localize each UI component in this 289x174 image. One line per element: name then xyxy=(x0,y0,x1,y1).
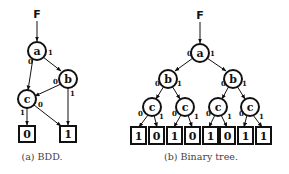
edge-label-high: 1 xyxy=(194,112,199,121)
terminal-0: 0 xyxy=(19,126,35,142)
leaf-3: 0 xyxy=(185,127,200,144)
svg-text:c: c xyxy=(215,101,222,114)
root-label: F xyxy=(33,8,41,21)
leaf-5: 0 xyxy=(220,127,235,144)
svg-text:1: 1 xyxy=(242,130,250,143)
edge-a-b xyxy=(43,57,61,71)
binary-tree-diagram: F a b b c xyxy=(131,9,271,162)
node-b-right: b xyxy=(224,70,242,88)
node-c-01: c xyxy=(176,98,194,116)
bdd-figure: F a b c 0 1 0 1 1 0 0 xyxy=(0,0,289,174)
edge-label-low: 0 xyxy=(221,79,226,88)
edge-label-high: 1 xyxy=(242,79,247,88)
svg-text:0: 0 xyxy=(153,130,161,143)
svg-text:a: a xyxy=(33,45,40,58)
edge-label-low: 0 xyxy=(155,79,160,88)
svg-text:b: b xyxy=(164,73,172,86)
edge-label-c-t1: 0 xyxy=(38,100,43,109)
edge-label-b-c: 0 xyxy=(53,77,58,86)
node-c: c xyxy=(18,90,36,108)
edge-label-high: 1 xyxy=(227,112,232,121)
edge-label-low: 0 xyxy=(172,109,177,118)
edge-label-a-b: 1 xyxy=(48,48,53,57)
svg-text:c: c xyxy=(149,101,156,114)
leaf-6: 1 xyxy=(238,127,253,144)
bdd-diagram: F a b c 0 1 0 1 1 0 0 xyxy=(18,8,77,162)
edge-label-b-t1: 1 xyxy=(70,89,75,98)
leaf-0: 1 xyxy=(131,127,146,144)
svg-text:0: 0 xyxy=(23,128,31,141)
svg-text:0: 0 xyxy=(224,130,232,143)
svg-text:1: 1 xyxy=(207,130,215,143)
node-b: b xyxy=(59,70,77,88)
leaf-4: 1 xyxy=(203,127,218,144)
edge-label-high: 1 xyxy=(210,49,215,58)
svg-text:1: 1 xyxy=(64,128,72,141)
edge-c11-leaf6 xyxy=(244,115,247,127)
svg-text:1: 1 xyxy=(260,130,268,143)
caption-a: (a) BDD. xyxy=(22,151,63,162)
svg-text:c: c xyxy=(247,101,254,114)
svg-text:1: 1 xyxy=(171,130,179,143)
edge-label-a-c: 0 xyxy=(28,57,33,66)
edge-label-low: 0 xyxy=(239,109,244,118)
leaf-7: 1 xyxy=(256,127,271,144)
svg-text:c: c xyxy=(24,93,31,106)
svg-text:1: 1 xyxy=(135,130,143,143)
node-a: a xyxy=(191,44,209,62)
edge-label-c-t0: 1 xyxy=(20,108,25,117)
edge-label-low: 0 xyxy=(187,49,192,58)
edge-label-high: 1 xyxy=(177,79,182,88)
node-c-10: c xyxy=(209,98,227,116)
edge-c00-leaf1 xyxy=(154,115,157,127)
root-label: F xyxy=(196,9,204,22)
edge-a-b0 xyxy=(175,58,193,71)
leaf-2: 1 xyxy=(167,127,182,144)
edge-a-b1 xyxy=(207,58,226,71)
terminal-1: 1 xyxy=(60,126,76,142)
caption-b: (b) Binary tree. xyxy=(164,151,238,162)
edge-label-high: 1 xyxy=(259,112,264,121)
svg-text:a: a xyxy=(196,47,203,60)
edge-label-low: 0 xyxy=(206,109,211,118)
edge-label-low: 0 xyxy=(138,109,143,118)
svg-text:c: c xyxy=(182,101,189,114)
svg-text:b: b xyxy=(229,73,237,86)
edge-c01-leaf3 xyxy=(188,115,192,127)
edge-label-high: 1 xyxy=(159,112,164,121)
svg-text:0: 0 xyxy=(189,130,197,143)
svg-text:b: b xyxy=(64,73,72,86)
node-b-left: b xyxy=(159,70,177,88)
leaf-1: 0 xyxy=(149,127,164,144)
